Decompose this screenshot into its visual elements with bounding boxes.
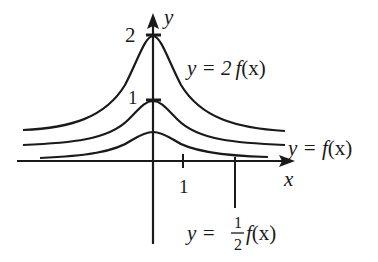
svg-text:y = f(x): y = f(x) bbox=[286, 136, 352, 160]
svg-text:f(x): f(x) bbox=[246, 221, 276, 245]
label-curve-half-f: y = 1 2 f(x) bbox=[185, 214, 276, 253]
label-curve-f: y = f(x) bbox=[286, 136, 352, 160]
peak-label-2: 2 bbox=[125, 23, 136, 47]
svg-text:y =: y = bbox=[185, 221, 216, 245]
x-axis-label: x bbox=[283, 167, 294, 191]
peak-label-1: 1 bbox=[128, 87, 138, 108]
function-scaling-diagram: y x 1 2 1 y = 2f(x) y = f(x) y = 1 2 f(x… bbox=[0, 0, 378, 262]
svg-text:y = 2f(x): y = 2f(x) bbox=[185, 56, 266, 80]
label-curve-2f: y = 2f(x) bbox=[185, 56, 266, 80]
x-tick-label-1: 1 bbox=[179, 176, 189, 197]
y-axis bbox=[147, 13, 159, 244]
svg-text:1: 1 bbox=[234, 214, 242, 231]
svg-text:2: 2 bbox=[234, 236, 242, 253]
y-axis-label: y bbox=[162, 5, 174, 29]
